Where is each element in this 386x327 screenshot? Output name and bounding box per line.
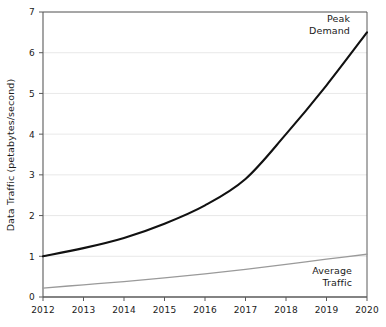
x-tick-label-2017: 2017 <box>234 305 258 315</box>
y-tick-label-7: 7 <box>29 7 35 17</box>
x-tick-label-2012: 2012 <box>31 305 55 315</box>
y-axis-title-group: Data Traffic (petabytes/second) <box>5 79 16 232</box>
y-tick-label-5: 5 <box>29 89 35 99</box>
peak-demand-label-line1: Peak <box>327 13 350 24</box>
x-tick-label-2013: 2013 <box>72 305 96 315</box>
y-tick-label-1: 1 <box>29 252 35 262</box>
y-tick-label-2: 2 <box>29 211 35 221</box>
y-tick-label-3: 3 <box>29 170 35 180</box>
line-chart: 01234567 2012201320142015201620172018201… <box>0 0 386 327</box>
x-tick-label-2016: 2016 <box>193 305 217 315</box>
x-tick-label-2015: 2015 <box>153 305 177 315</box>
chart-container: 01234567 2012201320142015201620172018201… <box>0 0 386 327</box>
average-traffic-label-line1: Average <box>312 265 352 276</box>
x-tick-label-2020: 2020 <box>355 305 379 315</box>
x-axis-ticks: 201220132014201520162017201820192020 <box>31 297 379 315</box>
y-tick-label-6: 6 <box>29 48 35 58</box>
y-axis-title: Data Traffic (petabytes/second) <box>5 79 16 232</box>
x-tick-label-2018: 2018 <box>274 305 298 315</box>
x-tick-label-2019: 2019 <box>315 305 339 315</box>
y-tick-label-4: 4 <box>29 130 35 140</box>
average-traffic-label-line2: Traffic <box>322 277 352 288</box>
y-tick-label-0: 0 <box>29 292 35 302</box>
x-tick-label-2014: 2014 <box>112 305 136 315</box>
peak-demand-label-line2: Demand <box>309 25 350 36</box>
